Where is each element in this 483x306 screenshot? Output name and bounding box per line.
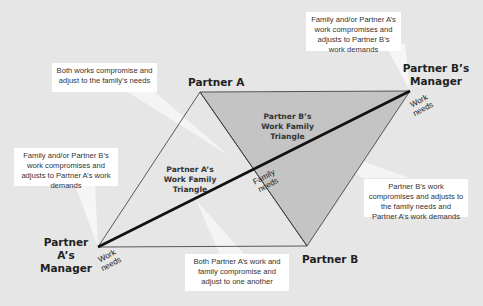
vertex-label-line: Partner A’s: [34, 236, 98, 262]
vertex-partner-a-manager: Partner A’s Manager: [34, 236, 98, 275]
triangle-label-a: Partner A’s Work Family Triangle: [155, 165, 225, 195]
callout-right: Partner B’s work compromises and adjusts…: [364, 179, 468, 217]
triangle-label-line: Triangle: [155, 185, 225, 195]
vertex-label-line: Partner B’s: [400, 62, 472, 75]
vertex-label-line: Manager: [400, 75, 472, 88]
triangle-label-b: Partner B’s Work Family Triangle: [250, 112, 325, 142]
vertex-label-line: Manager: [34, 262, 98, 275]
vertex-partner-b: Partner B: [302, 253, 358, 266]
callout-top-left: Both works compromise and adjust to the …: [52, 63, 157, 92]
callout-left: Family and/or Partner B’s work compromis…: [14, 148, 118, 186]
triangle-label-line: Partner B’s: [250, 112, 325, 122]
triangle-label-line: Triangle: [250, 132, 325, 142]
triangle-label-line: Work Family: [155, 175, 225, 185]
triangle-label-line: Partner A’s: [155, 165, 225, 175]
callout-top-right: Family and/or Partner A’s work compromis…: [306, 12, 401, 51]
vertex-partner-b-manager: Partner B’s Manager: [400, 62, 472, 88]
vertex-partner-a: Partner A: [188, 76, 244, 89]
triangle-label-line: Work Family: [250, 122, 325, 132]
callout-bottom: Both Partner A’s work and family comprom…: [185, 254, 289, 291]
